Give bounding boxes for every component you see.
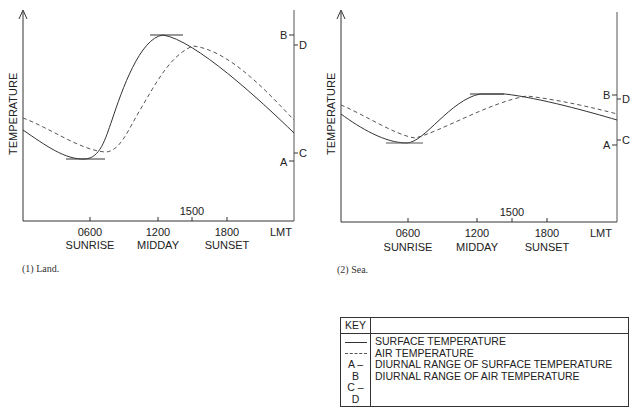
sea-x-unit: LMT: [590, 227, 612, 239]
sea-mark-a: A: [603, 139, 611, 151]
land-chart: B D C A TEMPERATURE 1500 0600 SUNRISE 12…: [7, 10, 307, 275]
land-tick-sunrise: SUNRISE: [66, 239, 115, 251]
land-tick-sunset: SUNSET: [205, 239, 250, 251]
key-title: KEY: [341, 318, 371, 333]
sea-air-temperature-curve: [341, 96, 617, 138]
sea-tick-sunset: SUNSET: [525, 241, 570, 253]
sea-mark-c: C: [622, 134, 630, 146]
sea-tick-0600: 0600: [396, 227, 420, 239]
land-mark-d: D: [299, 39, 307, 51]
land-caption: (1) Land.: [22, 263, 59, 275]
sea-y-label: TEMPERATURE: [325, 73, 337, 155]
sea-mid-tick-label: 1500: [500, 206, 524, 218]
land-mark-c: C: [299, 147, 307, 159]
sea-tick-1800: 1800: [535, 227, 559, 239]
sea-tick-midday: MIDDAY: [456, 241, 499, 253]
land-air-temperature-curve: [23, 46, 294, 152]
land-tick-midday: MIDDAY: [137, 239, 180, 251]
sea-tick-1200: 1200: [465, 227, 489, 239]
sea-mark-b: B: [603, 89, 610, 101]
dashed-line-icon: [345, 353, 367, 354]
land-y-label: TEMPERATURE: [7, 73, 19, 155]
sea-chart: B D C A TEMPERATURE 1500 0600 SUNRISE 12…: [325, 10, 630, 276]
key-symbol-cd: C – D: [343, 382, 368, 405]
sea-mark-d: D: [622, 93, 630, 105]
land-mark-a: A: [280, 156, 288, 168]
land-mid-tick-label: 1500: [180, 205, 204, 217]
land-x-unit: LMT: [270, 226, 292, 238]
key-symbols: A – B C – D: [341, 334, 371, 406]
key-descriptions: SURFACE TEMPERATURE AIR TEMPERATURE DIUR…: [371, 334, 628, 406]
sea-tick-sunrise: SUNRISE: [384, 241, 433, 253]
key-diurnal-air: DIURNAL RANGE OF AIR TEMPERATURE: [375, 371, 628, 383]
key-surface-temperature: SURFACE TEMPERATURE: [375, 336, 628, 348]
sea-surface-temperature-curve: [341, 94, 617, 143]
solid-line-icon: [345, 342, 367, 343]
land-tick-1200: 1200: [146, 226, 170, 238]
land-surface-temperature-curve: [23, 35, 294, 159]
key-symbol-ab: A – B: [343, 359, 368, 382]
key-legend: KEY A – B C – D SURFACE TEMPERATURE AIR …: [340, 317, 629, 407]
key-diurnal-surface: DIURNAL RANGE OF SURFACE TEMPERATURE: [375, 359, 628, 371]
sea-caption: (2) Sea.: [337, 264, 368, 276]
land-mark-b: B: [280, 29, 287, 41]
land-tick-1800: 1800: [215, 226, 239, 238]
land-tick-0600: 0600: [78, 226, 102, 238]
